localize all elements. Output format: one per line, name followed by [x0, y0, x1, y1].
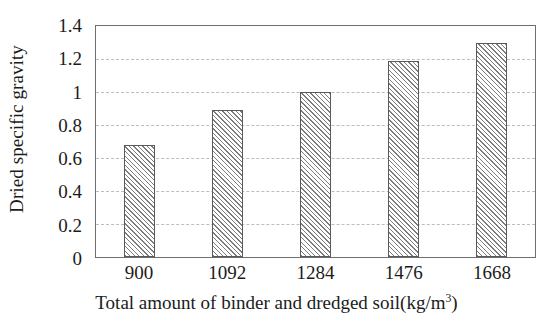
x-axis-title-tail: ) — [451, 292, 457, 313]
bar-slot — [184, 26, 272, 257]
x-axis-tick-labels: 900 1092 1284 1476 1668 — [95, 262, 536, 290]
bar-chart: Dried specific gravity 1.4 1.2 1 0.8 0.6… — [0, 0, 553, 332]
y-axis-tick-labels: 1.4 1.2 1 0.8 0.6 0.4 0.2 0 — [36, 25, 88, 258]
x-tick-label: 1284 — [271, 262, 359, 285]
bar-slot — [96, 26, 184, 257]
bar[interactable] — [476, 43, 507, 258]
y-tick-label: 1 — [73, 82, 83, 101]
bar-slot — [359, 26, 447, 257]
y-tick-label: 0.4 — [58, 182, 82, 201]
y-tick-label: 0.2 — [58, 215, 82, 234]
y-axis-title: Dried specific gravity — [0, 0, 34, 258]
bar-slot — [447, 26, 535, 257]
y-tick-label: 1.2 — [58, 49, 82, 68]
bars-layer — [96, 26, 535, 257]
bar[interactable] — [388, 61, 419, 257]
bar-slot — [272, 26, 360, 257]
bar[interactable] — [212, 110, 243, 257]
plot-area — [95, 25, 536, 258]
y-tick-label: 0 — [73, 249, 83, 268]
x-tick-label: 1668 — [448, 262, 536, 285]
x-axis-title-main: Total amount of binder and dredged soil(… — [95, 292, 445, 313]
y-tick-label: 1.4 — [58, 16, 82, 35]
y-tick-label: 0.6 — [58, 149, 82, 168]
x-axis-title: Total amount of binder and dredged soil(… — [0, 292, 553, 314]
bar[interactable] — [124, 145, 155, 257]
x-tick-label: 1092 — [183, 262, 271, 285]
bar[interactable] — [300, 92, 331, 257]
x-tick-label: 1476 — [360, 262, 448, 285]
x-tick-label: 900 — [95, 262, 183, 285]
y-tick-label: 0.8 — [58, 115, 82, 134]
